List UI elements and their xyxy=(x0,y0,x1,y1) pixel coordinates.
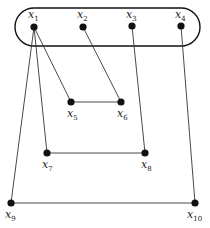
node-x6 xyxy=(117,98,124,105)
edge-x4-x10 xyxy=(181,26,195,203)
edge-x1-x9 xyxy=(11,27,34,203)
node-x7 xyxy=(43,149,50,156)
node-x3 xyxy=(128,22,135,29)
label-x3: x3 xyxy=(126,8,137,23)
label-x10: x10 xyxy=(187,208,202,223)
top-set-rounded-boundary xyxy=(15,8,200,46)
node-x2 xyxy=(79,23,86,30)
edges-layer xyxy=(11,26,195,203)
node-x5 xyxy=(67,98,74,105)
label-x6: x6 xyxy=(117,107,128,122)
node-x1 xyxy=(30,23,37,30)
edge-x2-x6 xyxy=(83,27,121,102)
edge-x1-x5 xyxy=(34,27,71,102)
label-x8: x8 xyxy=(141,158,152,173)
label-x4: x4 xyxy=(175,8,186,23)
label-x5: x5 xyxy=(67,107,78,122)
node-x9 xyxy=(7,199,14,206)
node-x10 xyxy=(191,199,198,206)
label-x7: x7 xyxy=(42,158,53,173)
label-x9: x9 xyxy=(5,208,16,223)
labels-layer: x1x2x3x4x5x6x7x8x9x10 xyxy=(5,8,202,223)
label-x1: x1 xyxy=(28,8,39,23)
node-x4 xyxy=(177,22,184,29)
label-x2: x2 xyxy=(77,8,88,23)
node-x8 xyxy=(141,149,148,156)
edge-x3-x8 xyxy=(132,26,145,153)
graph-diagram: x1x2x3x4x5x6x7x8x9x10 xyxy=(0,0,210,228)
